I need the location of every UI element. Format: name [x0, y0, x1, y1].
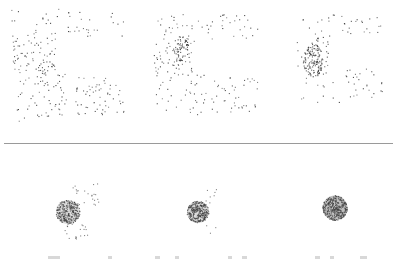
scatter-plot: [148, 8, 263, 123]
panel-stage-5: [180, 185, 220, 235]
panel-stage-2: [148, 8, 263, 123]
caption-fragment: [108, 256, 112, 259]
panel-stage-1: [5, 2, 130, 127]
scatter-plot: [5, 2, 130, 127]
caption-fragment: [48, 256, 60, 259]
panel-stage-4: [40, 172, 100, 242]
caption-fragment: [155, 256, 160, 259]
panel-stage-6: [320, 193, 350, 223]
caption-fragment: [315, 256, 320, 259]
clipped-caption-strip: [0, 256, 397, 260]
caption-fragment: [242, 256, 247, 259]
row-divider: [4, 143, 393, 144]
scatter-plot: [320, 193, 350, 223]
caption-fragment: [360, 256, 367, 259]
scatter-plot: [292, 8, 387, 108]
caption-fragment: [228, 256, 232, 259]
caption-fragment: [175, 256, 179, 259]
scatter-plot: [180, 185, 220, 235]
caption-fragment: [330, 256, 334, 259]
scatter-plot: [40, 172, 100, 242]
panel-stage-3: [292, 8, 387, 108]
